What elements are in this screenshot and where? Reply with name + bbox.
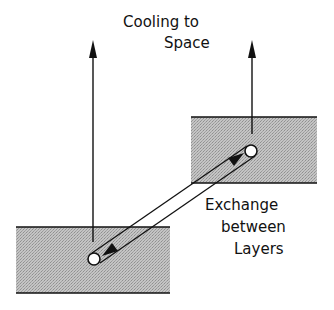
- radiative-exchange-diagram: Cooling to Space Exchange between Layers: [0, 0, 334, 310]
- arrowhead-up-icon: [248, 40, 256, 58]
- lower-point: [88, 253, 100, 265]
- exchange-label-line3: Layers: [234, 240, 284, 258]
- cooling-label-line2: Space: [164, 34, 210, 52]
- exchange-label-line2: between: [221, 218, 286, 236]
- cooling-arrow-left: [89, 40, 97, 242]
- upper-point: [245, 145, 257, 157]
- cooling-label-line1: Cooling to: [123, 13, 199, 31]
- arrowhead-up-icon: [89, 40, 97, 58]
- exchange-label-line1: Exchange: [205, 196, 278, 214]
